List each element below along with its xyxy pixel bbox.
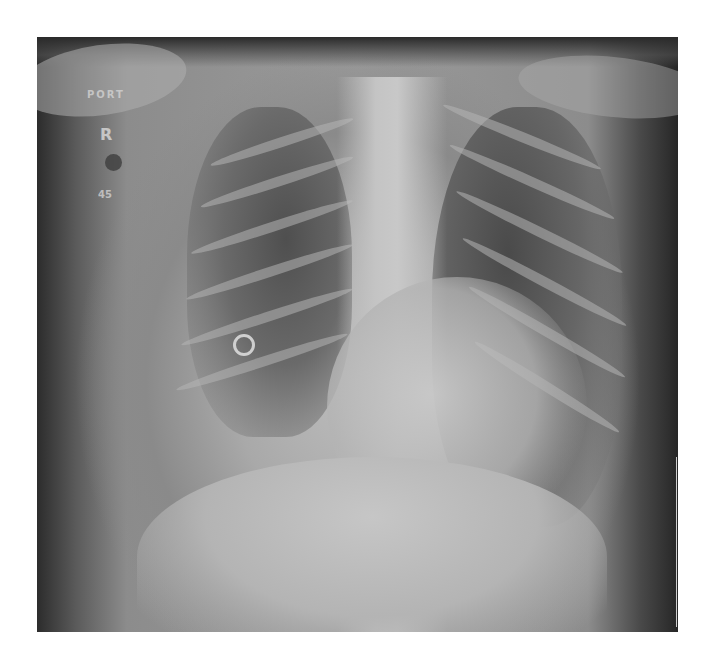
film-edge-line [676,457,677,627]
side-marker: R [100,125,114,144]
lead-marker-icon [105,154,122,171]
chest-xray-image: PORT R 45 [37,37,678,632]
angle-label: 45 [98,189,112,200]
ring-artifact [233,334,255,356]
portable-label: PORT [87,89,125,100]
